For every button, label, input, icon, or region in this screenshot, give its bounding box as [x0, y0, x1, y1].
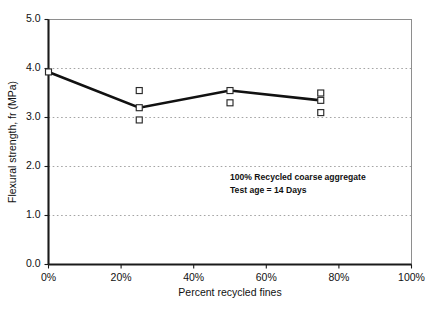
- data-point-marker: [136, 117, 142, 123]
- flexural-strength-chart: 0.01.02.03.04.05.0 0%20%40%60%80%100% 10…: [0, 0, 442, 311]
- chart-container: 0.01.02.03.04.05.0 0%20%40%60%80%100% 10…: [0, 0, 442, 311]
- x-tick-label: 20%: [111, 271, 132, 283]
- data-point-marker: [227, 88, 233, 94]
- chart-annotation-line: 100% Recycled coarse aggregate: [230, 172, 366, 182]
- data-point-marker: [136, 88, 142, 94]
- data-point-marker: [318, 97, 324, 103]
- x-tick-label: 0%: [41, 271, 56, 283]
- y-tick-label: 1.0: [26, 208, 41, 220]
- y-tick-label: 5.0: [26, 12, 41, 24]
- y-tick-label: 0.0: [26, 257, 41, 269]
- chart-annotation-line: Test age = 14 Days: [230, 185, 307, 195]
- data-point-marker: [136, 105, 142, 111]
- data-point-marker: [227, 100, 233, 106]
- x-tick-label: 40%: [183, 271, 204, 283]
- y-tick-label: 3.0: [26, 110, 41, 122]
- y-tick-label: 4.0: [26, 61, 41, 73]
- data-point-marker: [46, 69, 52, 75]
- x-tick-label: 80%: [328, 271, 349, 283]
- x-axis-title: Percent recycled fines: [178, 286, 281, 298]
- y-tick-label: 2.0: [26, 159, 41, 171]
- x-tick-label: 60%: [256, 271, 277, 283]
- x-tick-label: 100%: [398, 271, 425, 283]
- data-point-marker: [318, 90, 324, 96]
- data-point-marker: [318, 110, 324, 116]
- y-axis-title: Flexural strength, fr (MPa): [6, 81, 18, 203]
